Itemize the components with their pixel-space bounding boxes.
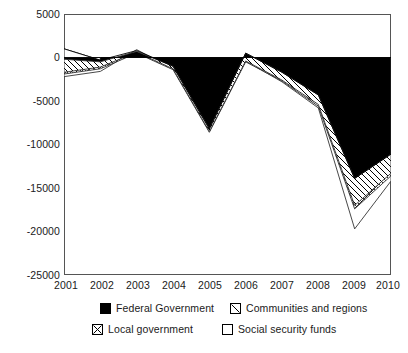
y-tick-label: -15000 — [4, 183, 60, 194]
y-tick-label: 0 — [4, 52, 60, 63]
legend-label: Local government — [108, 324, 193, 335]
stacked-area-plot — [64, 14, 391, 275]
legend-swatch-cross-hatch-icon — [92, 324, 103, 335]
y-tick-label: -20000 — [4, 226, 60, 237]
chart-legend: Federal Government Communities and regio… — [92, 303, 392, 347]
x-tick-label-2009: 2009 — [342, 280, 366, 291]
x-tick-label-2004: 2004 — [162, 280, 186, 291]
x-tick-label-2003: 2003 — [126, 280, 150, 291]
x-tick-label-2002: 2002 — [90, 280, 114, 291]
x-tick-label-2008: 2008 — [306, 280, 330, 291]
legend-swatch-diagonal-hatch-icon — [230, 303, 241, 314]
legend-item-local-government[interactable]: Local government — [92, 324, 193, 335]
y-tick-label: -10000 — [4, 139, 60, 150]
y-tick-label: -25000 — [4, 270, 60, 281]
x-tick-label-2005: 2005 — [198, 280, 222, 291]
y-tick-label: 5000 — [4, 9, 60, 20]
legend-item-federal-government[interactable]: Federal Government — [100, 303, 214, 314]
legend-label: Social security funds — [238, 324, 336, 335]
legend-swatch-solid-black-icon — [100, 303, 111, 314]
legend-item-communities-and-regions[interactable]: Communities and regions — [230, 303, 367, 314]
x-tick-label-2007: 2007 — [270, 280, 294, 291]
x-tick-label-2006: 2006 — [234, 280, 258, 291]
legend-label: Communities and regions — [246, 303, 367, 314]
legend-label: Federal Government — [116, 303, 214, 314]
y-tick-label: -5000 — [4, 96, 60, 107]
x-tick-label-2001: 2001 — [54, 280, 78, 291]
x-tick-label-2010: 2010 — [376, 280, 400, 291]
x-axis: 2001 2002 2003 2004 2005 2006 2007 2008 … — [64, 280, 391, 294]
y-axis: 5000 0 -5000 -10000 -15000 -20000 -25000 — [0, 0, 60, 353]
chart-container: 5000 0 -5000 -10000 -15000 -20000 -25000… — [0, 0, 408, 353]
legend-row-2: Local government Social security funds — [92, 324, 392, 342]
legend-item-social-security-funds[interactable]: Social security funds — [222, 324, 336, 335]
legend-row-1: Federal Government Communities and regio… — [92, 303, 392, 321]
legend-swatch-white-icon — [222, 324, 233, 335]
series-layer — [64, 49, 391, 229]
